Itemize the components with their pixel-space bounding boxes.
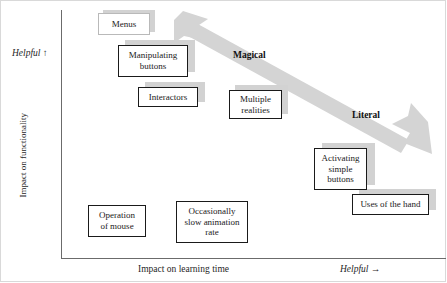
arrow-label-magical: Magical: [233, 50, 266, 60]
concept-box-uses-of-the-hand[interactable]: Uses of the hand: [352, 194, 429, 215]
concept-box-interactors[interactable]: Interactors: [138, 87, 198, 107]
concept-box-activating-simple-buttons[interactable]: Activatingsimplebuttons: [314, 148, 367, 190]
x-axis-direction-label: Helpful →: [340, 264, 380, 275]
concept-box-manipulating-buttons[interactable]: Manipulatingbuttons: [118, 45, 188, 77]
concept-box-multiple-realities[interactable]: Multiplerealities: [229, 90, 282, 119]
figure-canvas: Impact on functionality Helpful ↑ Impact…: [0, 0, 447, 283]
concept-box-menus[interactable]: Menus: [98, 13, 150, 35]
x-axis-line: [61, 258, 446, 259]
y-axis-line: [61, 10, 62, 259]
y-axis-direction-label: Helpful ↑: [12, 48, 48, 59]
concept-box-occasionally-slow-animation-rate[interactable]: Occasionallyslow animationrate: [176, 201, 248, 243]
y-axis-title: Impact on functionality: [18, 85, 28, 225]
x-axis-title: Impact on learning time: [138, 264, 229, 275]
concept-box-operation-of-mouse[interactable]: Operationof mouse: [88, 205, 146, 237]
arrow-label-literal: Literal: [352, 110, 380, 120]
